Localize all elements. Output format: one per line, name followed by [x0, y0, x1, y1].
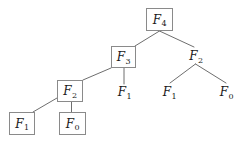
node-subscript: 1: [127, 92, 132, 101]
tree-edge: [160, 31, 195, 47]
tree-node-f0-plain: F0: [216, 84, 237, 100]
tree-edge: [33, 98, 57, 112]
node-subscript: 0: [229, 92, 234, 101]
node-subscript: 0: [75, 123, 80, 132]
tree-node-f1-plain: F1: [114, 84, 135, 100]
tree-edge: [170, 64, 196, 83]
node-symbol: F1: [15, 118, 29, 130]
node-symbol: F0: [66, 118, 80, 130]
node-symbol: F0: [220, 86, 234, 98]
tree-edge: [135, 31, 160, 46]
recursion-tree-figure: F4F3F2F2F1F1F0F1F0: [0, 0, 246, 145]
tree-node-f0-boxed: F0: [59, 112, 86, 135]
node-symbol: F3: [117, 51, 131, 63]
node-subscript: 2: [198, 56, 203, 65]
node-symbol: F2: [189, 50, 203, 62]
node-subscript: 2: [72, 91, 77, 100]
tree-edges-layer: [0, 0, 246, 145]
tree-node-f2-plain: F2: [185, 48, 207, 64]
node-subscript: 3: [126, 57, 131, 66]
node-symbol: F4: [153, 14, 167, 26]
node-subscript: 1: [24, 123, 29, 132]
tree-node-f3-boxed: F3: [111, 46, 136, 68]
node-subscript: 4: [162, 19, 167, 28]
tree-node-f4-boxed: F4: [146, 8, 173, 31]
node-symbol: F2: [63, 85, 77, 97]
tree-node-f2-boxed: F2: [57, 80, 83, 102]
tree-edge: [83, 68, 111, 80]
node-subscript: 1: [172, 92, 177, 101]
tree-node-f1-boxed: F1: [9, 112, 35, 135]
tree-edge: [196, 64, 227, 83]
node-symbol: F1: [118, 86, 132, 98]
tree-node-f1-plain: F1: [159, 84, 180, 100]
node-symbol: F1: [163, 86, 177, 98]
